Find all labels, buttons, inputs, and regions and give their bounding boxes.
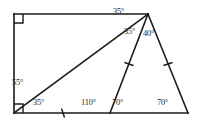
right-angle-top-left-icon: [14, 14, 23, 23]
angle-bottom-right-label: 70°: [157, 98, 168, 107]
angle-apex-upper-left-label: 35°: [113, 7, 124, 16]
geometry-canvas: [0, 0, 198, 135]
angle-apex-right-label: 40°: [143, 29, 154, 38]
angle-bottom-left-lower-label: 35°: [33, 98, 44, 107]
angle-bottom-mid-left-label: 110°: [81, 98, 96, 107]
angle-apex-middle-label: 35°: [124, 27, 135, 36]
angle-bottom-left-upper-label: 55°: [12, 78, 23, 87]
angle-bottom-mid-right-label: 70°: [112, 98, 123, 107]
geometry-figure: 35° 35° 40° 55° 35° 110° 70° 70°: [0, 0, 198, 135]
